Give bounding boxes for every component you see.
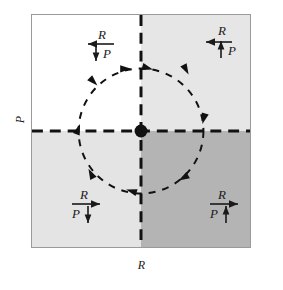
r-arrow-head-left xyxy=(206,38,215,46)
quadrant-label-top-right: R P xyxy=(192,22,254,62)
label-r-symbol: R xyxy=(217,23,226,38)
phase-plane-figure: R P R P R P xyxy=(0,0,283,290)
r-arrow-head-right xyxy=(229,200,238,208)
equilibrium-point xyxy=(135,125,148,138)
label-r-symbol: R xyxy=(97,27,106,42)
p-arrow-head-down xyxy=(93,53,100,62)
r-arrow-head-right xyxy=(91,200,100,208)
label-p-symbol: P xyxy=(102,46,111,61)
label-p-symbol: P xyxy=(71,206,80,221)
x-axis-title: R xyxy=(0,258,283,273)
quadrant-label-bottom-right: R P xyxy=(196,186,258,226)
y-axis-title: P xyxy=(13,109,28,131)
orbit-arrow-left xyxy=(73,123,83,136)
label-r-symbol: R xyxy=(79,187,88,202)
quadrant-label-bottom-left: R P xyxy=(58,186,120,226)
label-p-symbol: P xyxy=(209,206,218,221)
p-arrow-head-down xyxy=(85,215,92,224)
orbit-arrow-apex-right xyxy=(141,63,153,73)
orbit-arrow-upper-left xyxy=(87,75,100,88)
quadrant-label-top-left: R P xyxy=(72,26,134,66)
p-arrow-head-up xyxy=(223,206,230,215)
orbit-arrow-upper-right xyxy=(180,63,191,76)
label-r-symbol: R xyxy=(217,187,226,202)
label-p-symbol: P xyxy=(227,43,236,58)
